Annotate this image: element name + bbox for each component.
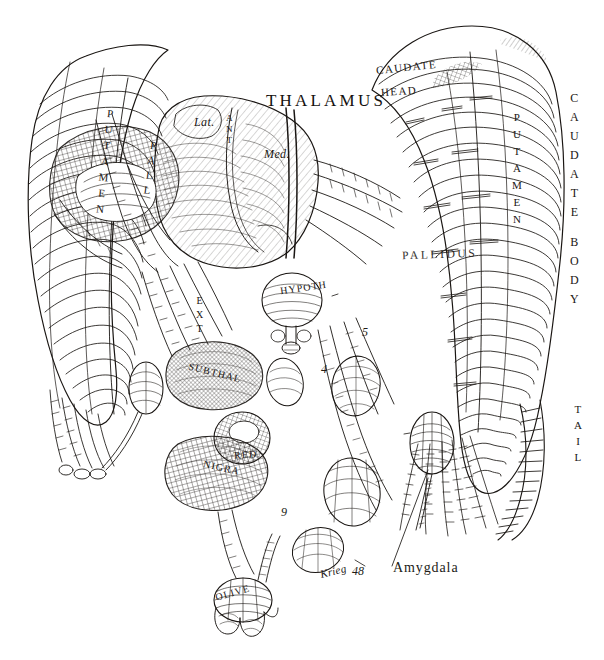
olive-body bbox=[214, 534, 280, 636]
left-pallidum-region bbox=[50, 126, 179, 241]
right-striatum-group bbox=[372, 26, 564, 493]
anatomical-figure: THALAMUS Lat. Med. A N T CAUDATE HEAD C … bbox=[0, 0, 604, 660]
subthalamus-body bbox=[166, 342, 263, 410]
figure-drawing bbox=[0, 0, 604, 660]
substantia-nigra-body bbox=[165, 436, 268, 510]
nigra-olive-tract bbox=[218, 510, 254, 578]
amygdala-body bbox=[392, 412, 454, 566]
callout-ticks bbox=[332, 294, 410, 566]
hypothalamus-body bbox=[262, 273, 322, 354]
caudate-tail-group bbox=[496, 400, 544, 540]
thalamic-radiation-fibers bbox=[306, 160, 402, 264]
